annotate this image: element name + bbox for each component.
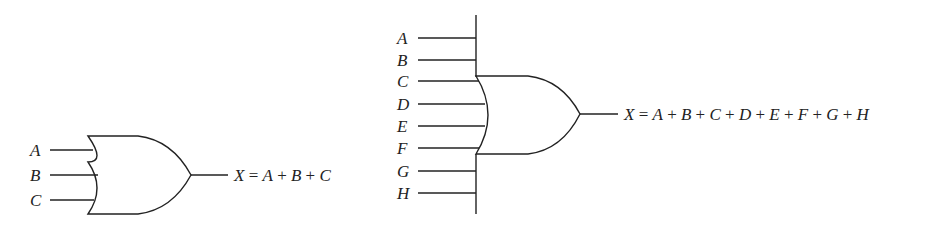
or-gate-body xyxy=(88,136,191,214)
input-label-b: B xyxy=(30,166,41,185)
input-label-d: D xyxy=(396,95,410,114)
input-label-a: A xyxy=(29,141,41,160)
input-label-c: C xyxy=(30,191,42,210)
output-expression: X = A + B + C + D + E + F + G + H xyxy=(623,105,871,124)
input-label-e: E xyxy=(396,117,408,136)
input-label-g: G xyxy=(397,162,409,181)
output-expression: X = A + B + C xyxy=(233,166,331,185)
input-label-c: C xyxy=(397,72,409,91)
input-label-a: A xyxy=(396,29,408,48)
input-label-f: F xyxy=(396,139,408,158)
input-label-b: B xyxy=(397,51,408,70)
logic-diagram-canvas: A B C X = A + B + C A B C D E F G H X = … xyxy=(0,0,938,234)
input-label-h: H xyxy=(396,184,411,203)
or-gate-3-input: A B C X = A + B + C xyxy=(29,136,331,214)
or-gate-body xyxy=(476,76,580,154)
or-gate-8-input: A B C D E F G H X = A + B + C + D + E + … xyxy=(396,15,871,214)
